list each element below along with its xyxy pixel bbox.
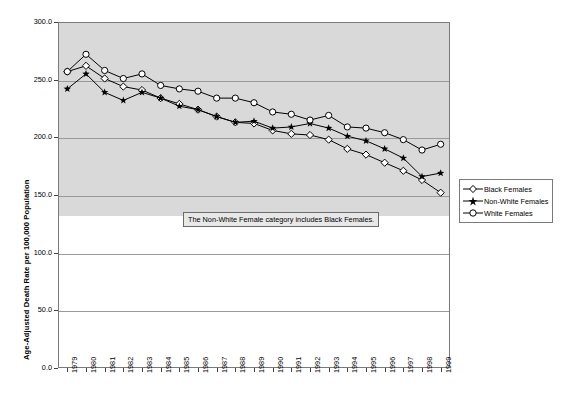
y-axis-tick-mark bbox=[54, 368, 58, 369]
x-axis-tick-label: 1979 bbox=[70, 357, 79, 373]
x-axis-tick-label: 1998 bbox=[425, 357, 434, 373]
open-circle-marker-icon bbox=[326, 112, 332, 118]
x-axis-tick-label: 1999 bbox=[444, 357, 453, 373]
filled-star-marker-icon bbox=[325, 124, 332, 131]
x-axis-tick-mark bbox=[67, 368, 68, 372]
filled-star-marker-icon bbox=[463, 195, 483, 207]
filled-star-marker-icon bbox=[362, 137, 369, 144]
x-axis-tick-mark bbox=[217, 368, 218, 372]
x-axis-tick-mark bbox=[347, 368, 348, 372]
x-axis-tick-label: 1981 bbox=[108, 357, 117, 373]
chart-container: Age-Adjusted Death Rate per 100,000 Popu… bbox=[0, 0, 562, 411]
x-axis-tick-label: 1983 bbox=[145, 357, 154, 373]
legend-item-black-females[interactable]: Black Females bbox=[463, 183, 548, 195]
y-axis-tick-label: 300.0 bbox=[0, 18, 52, 25]
chart-annotation: The Non-White Female category includes B… bbox=[183, 212, 379, 227]
x-axis-tick-label: 1992 bbox=[313, 357, 322, 373]
open-circle-marker-icon bbox=[400, 137, 406, 143]
x-axis-tick-mark bbox=[422, 368, 423, 372]
open-circle-marker-icon bbox=[251, 100, 257, 106]
y-axis-tick-label: 50.0 bbox=[0, 306, 52, 313]
open-circle-marker-icon bbox=[176, 86, 182, 92]
open-diamond-marker-icon bbox=[463, 183, 483, 195]
open-diamond-marker-icon bbox=[101, 75, 108, 82]
y-axis-tick-label: 150.0 bbox=[0, 191, 52, 198]
x-axis-tick-mark bbox=[179, 368, 180, 372]
x-axis-tick-mark bbox=[366, 368, 367, 372]
open-circle-marker-icon bbox=[270, 109, 276, 115]
x-axis-tick-mark bbox=[105, 368, 106, 372]
filled-star-marker-icon bbox=[288, 123, 295, 130]
open-circle-marker-icon bbox=[83, 51, 89, 57]
legend-label: Non-White Females bbox=[483, 197, 548, 206]
open-circle-marker-icon bbox=[158, 82, 164, 88]
x-axis-tick-label: 1990 bbox=[276, 357, 285, 373]
x-axis-tick-label: 1984 bbox=[164, 357, 173, 373]
open-diamond-marker-icon bbox=[437, 189, 444, 196]
x-axis-tick-label: 1996 bbox=[388, 357, 397, 373]
x-axis-tick-label: 1997 bbox=[406, 357, 415, 373]
x-axis-tick-mark bbox=[123, 368, 124, 372]
open-diamond-marker-icon bbox=[362, 151, 369, 158]
legend-item-white-females[interactable]: White Females bbox=[463, 207, 548, 219]
open-diamond-marker-icon bbox=[344, 145, 351, 152]
x-axis-tick-label: 1982 bbox=[126, 357, 135, 373]
y-axis-title: Age-Adjusted Death Rate per 100,000 Popu… bbox=[22, 179, 31, 360]
x-axis-tick-mark bbox=[198, 368, 199, 372]
open-circle-marker-icon bbox=[195, 88, 201, 94]
open-diamond-marker-icon bbox=[82, 62, 89, 69]
open-circle-marker-icon bbox=[438, 141, 444, 147]
open-circle-marker-icon bbox=[288, 111, 294, 117]
x-axis-tick-label: 1993 bbox=[332, 357, 341, 373]
x-axis-tick-mark bbox=[86, 368, 87, 372]
x-axis-tick-mark bbox=[403, 368, 404, 372]
filled-star-marker-icon bbox=[437, 169, 444, 176]
x-axis-tick-label: 1985 bbox=[182, 357, 191, 373]
x-axis-tick-mark bbox=[329, 368, 330, 372]
filled-star-marker-icon bbox=[120, 97, 127, 104]
x-axis-tick-label: 1988 bbox=[238, 357, 247, 373]
open-diamond-marker-icon bbox=[306, 131, 313, 138]
x-axis-tick-mark bbox=[161, 368, 162, 372]
legend-item-non-white-females[interactable]: Non-White Females bbox=[463, 195, 548, 207]
y-axis-tick-label: 0.0 bbox=[0, 364, 52, 371]
open-circle-marker-icon bbox=[214, 95, 220, 101]
open-circle-marker-icon bbox=[120, 75, 126, 81]
series-white-females bbox=[64, 51, 444, 153]
open-circle-marker-icon bbox=[139, 71, 145, 77]
x-axis-tick-label: 1987 bbox=[220, 357, 229, 373]
open-diamond-marker-icon bbox=[120, 83, 127, 90]
x-axis-tick-label: 1995 bbox=[369, 357, 378, 373]
data-series-layer bbox=[58, 22, 450, 368]
x-axis-tick-mark bbox=[310, 368, 311, 372]
x-axis-tick-mark bbox=[254, 368, 255, 372]
open-diamond-marker-icon bbox=[288, 130, 295, 137]
x-axis-tick-mark bbox=[142, 368, 143, 372]
x-axis-tick-label: 1994 bbox=[350, 357, 359, 373]
y-axis-tick-label: 200.0 bbox=[0, 133, 52, 140]
x-axis-tick-label: 1980 bbox=[89, 357, 98, 373]
open-circle-marker-icon bbox=[382, 130, 388, 136]
open-circle-marker-icon bbox=[463, 207, 483, 219]
x-axis-tick-mark bbox=[385, 368, 386, 372]
y-axis-tick-label: 100.0 bbox=[0, 249, 52, 256]
open-diamond-marker-icon bbox=[400, 167, 407, 174]
legend-label: Black Females bbox=[483, 185, 532, 194]
open-circle-marker-icon bbox=[102, 67, 108, 73]
open-circle-marker-icon bbox=[344, 124, 350, 130]
open-circle-marker-icon bbox=[64, 68, 70, 74]
x-axis-tick-mark bbox=[441, 368, 442, 372]
x-axis-tick-mark bbox=[235, 368, 236, 372]
x-axis-tick-label: 1991 bbox=[294, 357, 303, 373]
x-axis-tick-mark bbox=[291, 368, 292, 372]
x-axis-tick-label: 1986 bbox=[201, 357, 210, 373]
legend-label: White Females bbox=[483, 209, 533, 218]
chart-legend: Black Females Non-White Females White Fe… bbox=[459, 179, 553, 223]
filled-star-marker-icon bbox=[381, 145, 388, 152]
open-circle-marker-icon bbox=[419, 147, 425, 153]
filled-star-marker-icon bbox=[64, 85, 71, 92]
series-black-females bbox=[64, 62, 445, 196]
x-axis-tick-mark bbox=[273, 368, 274, 372]
open-diamond-marker-icon bbox=[381, 159, 388, 166]
y-axis-tick-label: 250.0 bbox=[0, 76, 52, 83]
